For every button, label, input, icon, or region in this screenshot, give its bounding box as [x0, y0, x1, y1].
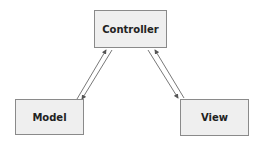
controller-node: Controller	[94, 10, 167, 48]
view-node: View	[180, 99, 249, 136]
arrow-controller-to-view	[148, 50, 178, 98]
arrow-controller-to-model	[82, 50, 112, 99]
controller-label: Controller	[102, 24, 158, 35]
model-label: Model	[32, 112, 66, 123]
model-node: Model	[15, 99, 84, 135]
arrow-view-to-controller	[155, 50, 184, 98]
view-label: View	[201, 112, 228, 123]
arrow-model-to-controller	[77, 50, 106, 99]
